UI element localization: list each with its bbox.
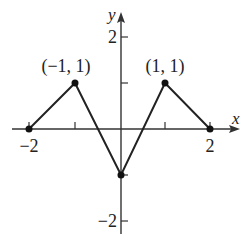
- data-point: [72, 80, 79, 87]
- y-tick-label-neg2: −2: [98, 211, 117, 231]
- data-point: [118, 172, 125, 179]
- point-label-left: (−1, 1): [41, 56, 90, 77]
- graph: y x −2 2 2 −2 (−1, 1) (1, 1): [0, 0, 241, 234]
- data-point: [26, 126, 33, 133]
- x-axis-label: x: [231, 109, 240, 128]
- x-tick-label-neg2: −2: [19, 136, 38, 156]
- data-point: [162, 80, 169, 87]
- x-tick-label-pos2: 2: [206, 136, 215, 156]
- y-tick-label-pos2: 2: [108, 27, 117, 47]
- data-point: [207, 126, 214, 133]
- point-label-right: (1, 1): [146, 56, 185, 77]
- y-axis-label: y: [106, 5, 116, 24]
